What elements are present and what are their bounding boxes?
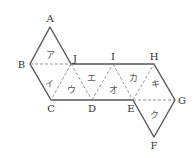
vertex-label-C: C [47,103,55,114]
vertex-label-G: G [178,95,186,106]
vertex-label-J: J [72,53,77,64]
face-label: カ [129,73,138,83]
vertex-label-E: E [127,103,134,114]
octahedron-net-diagram: ABJCDIHEGF アイウエオカキク [0,0,193,158]
face-label: イ [45,79,54,89]
vertex-label-B: B [18,59,25,70]
vertex-label-I: I [111,51,115,62]
face-label: ウ [67,85,76,95]
face-label: ク [150,110,159,120]
vertex-label-F: F [151,140,158,151]
vertex-label-A: A [45,13,54,24]
vertex-label-H: H [150,51,159,62]
face-label: キ [151,79,160,89]
face-label: ア [46,50,55,60]
vertex-labels: ABJCDIHEGF [18,13,186,151]
face-label: エ [87,73,96,83]
vertex-label-D: D [88,103,96,114]
face-label: オ [109,85,118,95]
